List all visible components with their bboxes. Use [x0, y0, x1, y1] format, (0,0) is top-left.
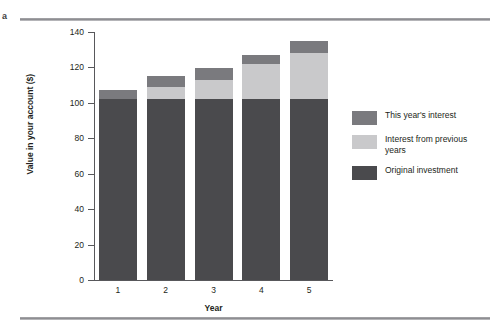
x-axis-tick-label: 5	[290, 286, 328, 295]
bar-segment	[99, 99, 137, 280]
y-axis-tick-label: 60	[54, 170, 84, 179]
bar-segment	[195, 99, 233, 280]
legend-swatch	[352, 135, 377, 149]
y-axis-tick-label: 120	[54, 63, 84, 72]
y-axis-tick-mark	[88, 280, 94, 281]
y-axis-tick: 20	[46, 245, 94, 246]
bar-series-container	[94, 32, 333, 280]
y-axis-tick: 60	[46, 174, 94, 175]
bar-segment	[242, 99, 280, 280]
y-axis-tick-label: 80	[54, 134, 84, 143]
bar-segment	[195, 68, 233, 80]
bar-segment	[147, 99, 185, 280]
x-axis-tick-label: 3	[195, 286, 233, 295]
x-axis-tick-label: 1	[99, 286, 137, 295]
x-axis-title: Year	[94, 304, 333, 313]
legend-item[interactable]: This year's interest	[352, 110, 487, 125]
y-axis-tick: 80	[46, 138, 94, 139]
legend-item[interactable]: Original investment	[352, 165, 487, 180]
y-axis-tick-label: 140	[54, 28, 84, 37]
bar-stack[interactable]	[147, 76, 185, 280]
legend-swatch	[352, 166, 377, 180]
y-axis-tick: 140	[46, 32, 94, 33]
bar-segment	[242, 64, 280, 99]
legend-label: Interest from previous years	[385, 134, 481, 156]
bar-stack[interactable]	[99, 90, 137, 280]
legend-swatch	[352, 111, 377, 125]
chart-legend: This year's interestInterest from previo…	[352, 110, 487, 189]
y-axis-tick: 40	[46, 209, 94, 210]
y-axis-tick-label: 100	[54, 99, 84, 108]
y-axis-tick-label: 20	[54, 241, 84, 250]
bar-stack[interactable]	[195, 68, 233, 280]
y-axis-tick-label: 40	[54, 205, 84, 214]
y-axis-tick: 120	[46, 67, 94, 68]
legend-label: Original investment	[385, 165, 458, 176]
x-axis-tick-label: 2	[147, 286, 185, 295]
bar-segment	[195, 80, 233, 99]
bar-segment	[147, 87, 185, 99]
x-axis-line	[94, 280, 333, 281]
y-axis-title: Value in your account ($)	[26, 34, 35, 214]
bar-segment	[290, 53, 328, 99]
legend-item[interactable]: Interest from previous years	[352, 134, 487, 156]
y-axis-tick-label: 0	[54, 276, 84, 285]
bar-stack[interactable]	[242, 55, 280, 280]
bar-segment	[290, 41, 328, 53]
bar-segment	[290, 99, 328, 280]
bar-segment	[147, 76, 185, 87]
y-axis-tick: 100	[46, 103, 94, 104]
bar-stack[interactable]	[290, 41, 328, 280]
y-axis-tick: 0	[46, 280, 94, 281]
legend-label: This year's interest	[385, 110, 456, 121]
x-axis-tick-label: 4	[242, 286, 280, 295]
bar-segment	[99, 90, 137, 99]
figure-panel: a 020406080100120140 Value in your accou…	[0, 0, 494, 335]
bar-segment	[242, 55, 280, 64]
